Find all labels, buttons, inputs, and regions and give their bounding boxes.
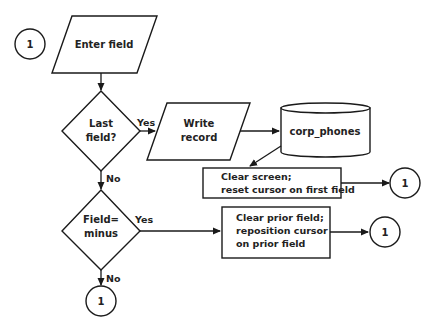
connector-clear-screen: 1 xyxy=(390,168,420,198)
clear-prior-process: Clear prior field; reposition cursor on … xyxy=(222,207,330,258)
field-minus-decision: Field= minus xyxy=(62,190,140,270)
field-minus-line1: Field= xyxy=(83,214,119,225)
field-minus-no-label: No xyxy=(106,273,121,284)
write-record-node: Write record xyxy=(147,103,250,160)
clear-prior-line3: on prior field xyxy=(236,238,305,249)
connector-end-label: 1 xyxy=(98,296,105,307)
edge-db-to-clear xyxy=(250,146,281,166)
field-minus-yes-label: Yes xyxy=(134,214,153,225)
field-minus-line2: minus xyxy=(84,228,118,239)
connector-start-label: 1 xyxy=(27,39,34,50)
connector-clear-screen-label: 1 xyxy=(402,178,409,189)
clear-prior-line2: reposition cursor xyxy=(236,225,328,236)
flowchart-canvas: 1 Enter field Last field? Yes Write reco… xyxy=(0,0,433,333)
connector-start: 1 xyxy=(15,29,45,59)
last-field-line2: field? xyxy=(86,132,117,143)
clear-screen-line1: Clear screen; xyxy=(221,171,292,182)
write-record-line2: record xyxy=(181,132,218,143)
connector-clear-prior: 1 xyxy=(370,217,400,247)
last-field-decision: Last field? xyxy=(62,91,140,171)
last-field-no-label: No xyxy=(106,173,121,184)
enter-field-input-node: Enter field xyxy=(52,16,157,73)
enter-field-label: Enter field xyxy=(75,39,134,50)
write-record-line1: Write xyxy=(184,118,215,129)
clear-screen-line2: reset cursor on first field xyxy=(221,184,355,195)
clear-prior-line1: Clear prior field; xyxy=(236,212,324,223)
corp-phones-database: corp_phones xyxy=(281,103,370,157)
last-field-line1: Last xyxy=(89,118,113,129)
corp-phones-label: corp_phones xyxy=(290,126,361,138)
connector-clear-prior-label: 1 xyxy=(382,227,389,238)
connector-end: 1 xyxy=(86,286,116,316)
last-field-yes-label: Yes xyxy=(136,117,155,128)
clear-screen-process: Clear screen; reset cursor on first fiel… xyxy=(203,168,355,198)
